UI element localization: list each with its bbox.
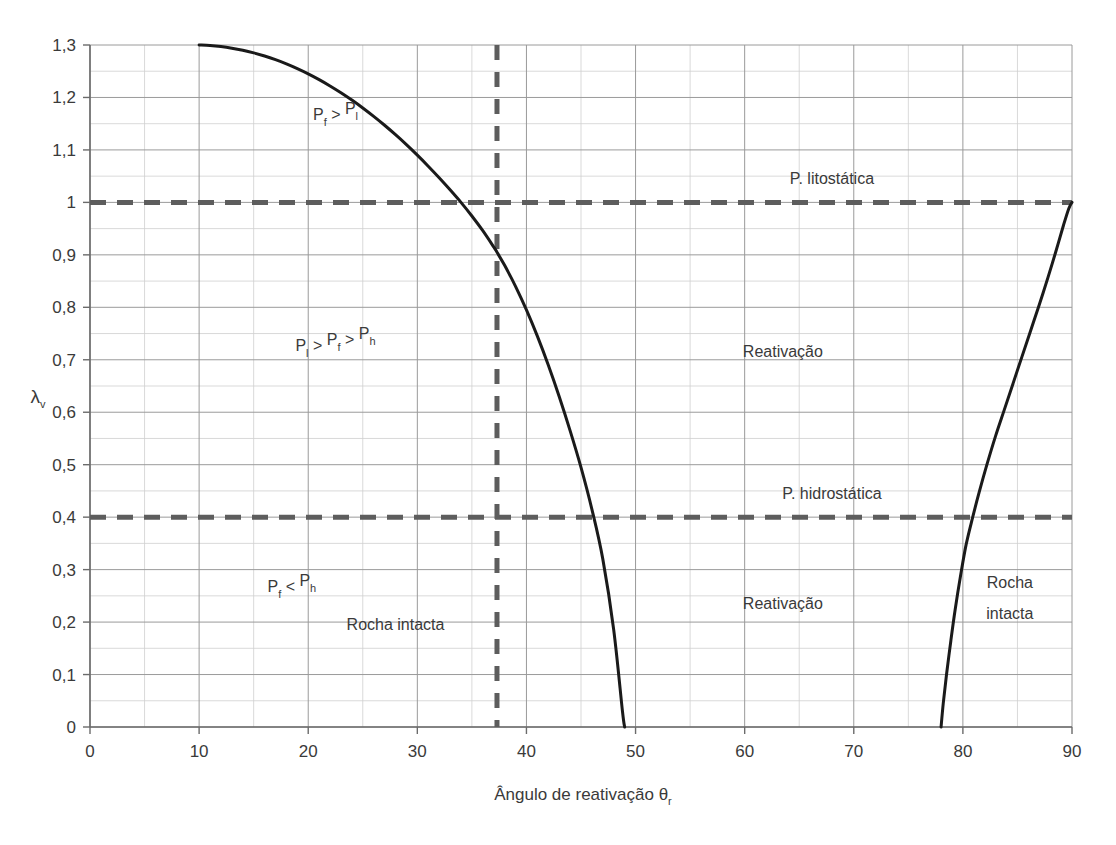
x-tick-label: 30 — [408, 742, 427, 761]
chart-annotations: Pf > PlPl > Pf > PhPf < PhReativaçãoReat… — [267, 100, 1033, 633]
annotation-rocha-intacta-center: Rocha intacta — [347, 616, 445, 633]
y-tick-label: 0,6 — [52, 403, 76, 422]
y-axis-title: λv — [31, 386, 47, 410]
x-tick-label: 20 — [299, 742, 318, 761]
y-tick-label: 1 — [67, 193, 76, 212]
reference-line-label: P. litostática — [790, 170, 874, 187]
x-tick-label: 40 — [517, 742, 536, 761]
x-tick-label: 0 — [85, 742, 94, 761]
annotation-reativacao-lower: Reativação — [743, 595, 823, 612]
y-tick-label: 0,9 — [52, 246, 76, 265]
reference-line-label: P. hidrostática — [782, 485, 881, 502]
x-tick-label: 80 — [953, 742, 972, 761]
x-tick-label: 60 — [735, 742, 754, 761]
y-tick-label: 0,1 — [52, 666, 76, 685]
annotation-pf-gt-pl: Pf > Pl — [313, 100, 358, 128]
annotation-rocha-intacta-right-2: intacta — [986, 605, 1033, 622]
x-tick-label: 90 — [1063, 742, 1082, 761]
y-tick-label: 0,4 — [52, 508, 76, 527]
annotation-rocha-intacta-right-1: Rocha — [987, 574, 1033, 591]
annotation-reativacao-upper: Reativação — [743, 343, 823, 360]
x-tick-label: 10 — [190, 742, 209, 761]
x-axis-title: Ângulo de reativação θr — [494, 785, 672, 807]
chart-svg: 00,10,20,30,40,50,60,70,80,911,11,21,3 0… — [0, 0, 1116, 845]
y-tick-label: 0,8 — [52, 298, 76, 317]
y-tick-label: 0,3 — [52, 561, 76, 580]
x-tick-label: 50 — [626, 742, 645, 761]
y-tick-label: 1,1 — [52, 141, 76, 160]
annotation-pf-lt-ph: Pf < Ph — [267, 572, 316, 600]
y-tick-label: 0,7 — [52, 351, 76, 370]
y-axis-tick-labels: 00,10,20,30,40,50,60,70,80,911,11,21,3 — [52, 36, 76, 737]
axis-lines — [83, 45, 1072, 734]
x-tick-label: 70 — [844, 742, 863, 761]
y-tick-label: 0,5 — [52, 456, 76, 475]
minor-gridlines — [90, 45, 1072, 727]
reactivation-angle-chart-figure: 00,10,20,30,40,50,60,70,80,911,11,21,3 0… — [0, 0, 1116, 845]
annotation-pl-gt-pf-gt-ph: Pl > Pf > Ph — [295, 325, 375, 359]
y-tick-label: 0 — [67, 718, 76, 737]
x-axis-tick-labels: 0102030405060708090 — [85, 742, 1081, 761]
y-tick-label: 1,2 — [52, 88, 76, 107]
y-tick-label: 1,3 — [52, 36, 76, 55]
y-tick-label: 0,2 — [52, 613, 76, 632]
